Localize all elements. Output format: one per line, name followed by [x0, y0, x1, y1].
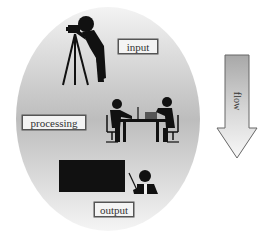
- flow-label: flow: [231, 90, 243, 112]
- diagram: input processing output flow: [0, 0, 270, 233]
- blackboard: [59, 160, 125, 192]
- processing-label: processing: [22, 115, 86, 130]
- input-label: input: [118, 39, 158, 54]
- output-label: output: [94, 202, 134, 217]
